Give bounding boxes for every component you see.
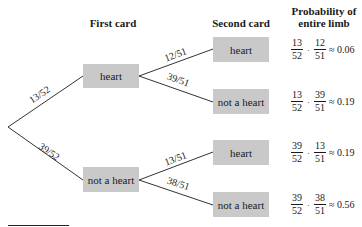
node-second-heart-heart: heart (213, 37, 269, 62)
limb-probability-2: 1352 · 3951 ≈ 0.19 (291, 90, 355, 113)
fraction: 3952 (291, 193, 303, 216)
fraction: 1251 (314, 38, 326, 61)
node-second-heart-not-heart: not a heart (213, 89, 269, 114)
multiply-sign: · (307, 200, 310, 210)
limb-probability-1: 1352 · 1251 ≈ 0.06 (291, 38, 355, 61)
node-second-notheart-not-heart: not a heart (213, 192, 269, 217)
node-first-not-heart: not a heart (83, 167, 139, 192)
node-first-heart: heart (83, 64, 139, 88)
approx-result: ≈ 0.56 (329, 199, 355, 210)
fraction: 1352 (291, 90, 303, 113)
multiply-sign: · (307, 148, 310, 158)
fraction: 3952 (291, 141, 303, 164)
approx-result: ≈ 0.19 (329, 147, 355, 158)
fraction: 3951 (314, 90, 326, 113)
limb-probability-4: 3952 · 3851 ≈ 0.56 (291, 193, 355, 216)
multiply-sign: · (307, 97, 310, 107)
node-second-notheart-heart: heart (213, 140, 269, 165)
fraction: 3851 (314, 193, 326, 216)
fraction: 1352 (291, 38, 303, 61)
footnote-divider (8, 225, 69, 226)
limb-probability-3: 3952 · 1351 ≈ 0.19 (291, 141, 355, 164)
fraction: 1351 (314, 141, 326, 164)
approx-result: ≈ 0.06 (329, 44, 355, 55)
approx-result: ≈ 0.19 (329, 96, 355, 107)
multiply-sign: · (307, 45, 310, 55)
